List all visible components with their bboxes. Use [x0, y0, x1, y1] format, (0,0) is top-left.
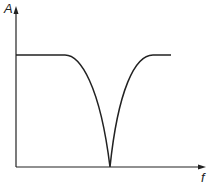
notch-response-diagram	[0, 0, 212, 187]
x-axis-label: f	[201, 170, 205, 185]
y-axis-arrow-icon	[14, 6, 19, 14]
y-axis-label: A	[4, 1, 13, 16]
response-curve	[16, 55, 171, 167]
x-axis-arrow-icon	[198, 165, 206, 170]
